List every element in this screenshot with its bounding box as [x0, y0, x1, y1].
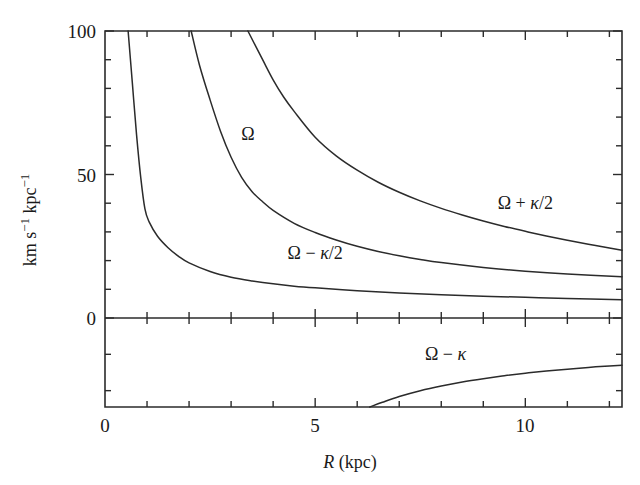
curve-annotations: Ω − κ/2ΩΩ + κ/2Ω − κ: [241, 124, 553, 364]
figure-container: 100 50 0 0 5 10 R (kpc) km s−1 kpc−1 Ω −…: [0, 0, 640, 485]
y-axis-title-sup2: −1: [17, 174, 32, 188]
curve-label-3: Ω − κ: [425, 344, 467, 364]
y-axis-title-sup1: −1: [17, 218, 32, 232]
lower-panel-frame: [105, 318, 622, 407]
x-axis-title-units: (kpc): [334, 452, 376, 473]
data-curves: [128, 31, 622, 407]
tick-marks: [105, 31, 622, 407]
y-axis-title: km s−1 kpc−1: [17, 174, 40, 267]
curve-label-1: Ω: [241, 124, 254, 144]
curve-series-2: [248, 31, 622, 250]
xtick-label-0: 0: [100, 415, 110, 436]
rotation-curve-chart: 100 50 0 0 5 10 R (kpc) km s−1 kpc−1 Ω −…: [0, 0, 640, 485]
y-axis-title-km: km s: [20, 232, 40, 267]
curve-series-1: [191, 31, 622, 277]
lower-panel-box: [105, 318, 622, 407]
ytick-label-100: 100: [68, 21, 97, 42]
xtick-label-5: 5: [310, 415, 320, 436]
xtick-label-10: 10: [516, 415, 535, 436]
curve-label-2: Ω + κ/2: [498, 193, 553, 213]
x-axis-title-symbol: R: [322, 452, 334, 472]
x-axis-title: R (kpc): [322, 452, 376, 473]
curve-series-3: [370, 365, 622, 407]
curve-series-0: [128, 31, 622, 300]
curve-label-0: Ω − κ/2: [288, 243, 343, 263]
y-axis-title-kpc: kpc: [20, 187, 40, 218]
ytick-label-50: 50: [77, 165, 96, 186]
ytick-label-0: 0: [87, 308, 97, 329]
